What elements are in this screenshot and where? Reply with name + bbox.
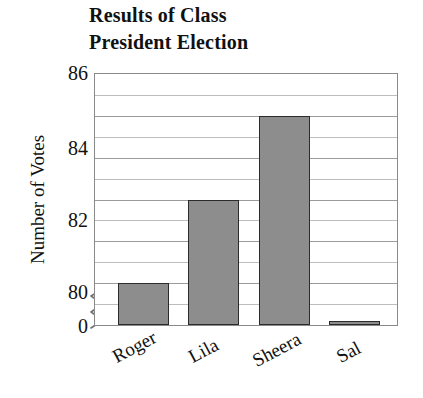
plot-area <box>94 73 398 326</box>
bar-roger <box>118 283 169 325</box>
bar-sal <box>329 321 380 325</box>
y-tick-label-82: 82 <box>28 210 88 230</box>
x-tick-label-lila: Lila <box>185 335 221 367</box>
gridline-82 <box>95 241 397 242</box>
x-tick-label-sheera: Sheera <box>249 329 304 371</box>
bar-lila <box>188 200 239 326</box>
y-tick-label-0: 0 <box>28 316 88 336</box>
bar-chart: Results of Class President Election Numb… <box>0 0 423 398</box>
gridline-85 <box>95 116 397 117</box>
bar-sheera <box>259 116 310 325</box>
y-axis-tick-labels: 86 84 82 80 0 <box>22 0 88 398</box>
gridline-83.5 <box>95 179 397 180</box>
gridline-83 <box>95 200 397 201</box>
plot-inner <box>95 74 397 325</box>
y-tick-label-84: 84 <box>28 138 88 158</box>
gridline-84 <box>95 158 397 159</box>
x-tick-label-roger: Roger <box>109 327 159 366</box>
gridline-85.5 <box>95 95 397 96</box>
chart-title: Results of Class President Election <box>89 2 389 56</box>
y-tick-label-80: 80 <box>28 282 88 302</box>
gridline-84.5 <box>95 137 397 138</box>
gridline-82.5 <box>95 220 397 221</box>
x-tick-label-sal: Sal <box>333 338 364 367</box>
y-tick-label-86: 86 <box>28 63 88 83</box>
gridline-81.5 <box>95 262 397 263</box>
